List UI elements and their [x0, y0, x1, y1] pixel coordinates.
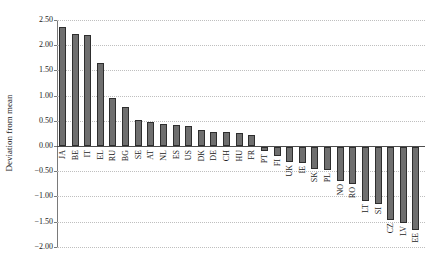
bar — [173, 125, 180, 146]
zero-line — [57, 146, 425, 147]
category-label: DK — [196, 150, 207, 168]
bar — [97, 63, 104, 146]
bar — [198, 130, 205, 146]
category-label: US — [183, 150, 194, 168]
bar — [299, 147, 306, 163]
category-label: FI — [272, 159, 283, 177]
category-label: SE — [133, 150, 144, 168]
bar — [84, 35, 91, 146]
category-label: FR — [246, 150, 257, 168]
category-label: BE — [70, 150, 81, 168]
bar — [147, 122, 154, 146]
y-tick-label: 2.00 — [17, 40, 53, 50]
bar — [223, 132, 230, 146]
category-label: NO — [335, 184, 346, 202]
bar — [274, 147, 281, 156]
category-label: LT — [360, 204, 371, 222]
bar — [160, 124, 167, 146]
bar — [387, 147, 394, 220]
gridline — [57, 247, 425, 248]
bar — [135, 120, 142, 146]
y-axis-line — [57, 20, 58, 248]
y-tick-label: −0.50 — [17, 166, 53, 176]
category-label: UK — [284, 165, 295, 183]
category-label: SK — [309, 172, 320, 190]
y-axis-tick — [54, 20, 57, 21]
category-label: PL — [322, 173, 333, 191]
y-axis-tick — [54, 96, 57, 97]
y-tick-label: −2.00 — [17, 242, 53, 252]
y-axis-tick — [54, 171, 57, 172]
category-label: EE — [410, 233, 421, 251]
gridline — [57, 70, 425, 71]
y-axis-tick — [54, 70, 57, 71]
category-label: PT — [259, 154, 270, 172]
y-axis-title: Deviation from mean — [3, 83, 15, 183]
gridline — [57, 222, 425, 223]
y-tick-label: 2.50 — [17, 15, 53, 25]
bar — [311, 147, 318, 169]
y-axis-tick — [54, 222, 57, 223]
category-label: SI — [373, 207, 384, 225]
category-label: RO — [347, 187, 358, 205]
bar — [286, 147, 293, 162]
gridline — [57, 171, 425, 172]
category-label: NL — [158, 150, 169, 168]
gridline — [57, 96, 425, 97]
category-label: JA — [57, 150, 68, 168]
y-axis-tick — [54, 121, 57, 122]
bar — [362, 147, 369, 201]
bar — [337, 147, 344, 181]
gridline — [57, 45, 425, 46]
bar — [375, 147, 382, 204]
bar — [248, 135, 255, 146]
y-axis-tick — [54, 196, 57, 197]
bar — [59, 27, 66, 146]
bar — [412, 147, 419, 230]
bar — [210, 132, 217, 146]
category-label: RU — [107, 150, 118, 168]
gridline — [57, 20, 425, 21]
category-label: IE — [297, 166, 308, 184]
bar — [122, 107, 129, 146]
bar — [349, 147, 356, 184]
category-label: ES — [171, 150, 182, 168]
y-tick-label: 1.00 — [17, 91, 53, 101]
category-label: EL — [95, 150, 106, 168]
category-label: IT — [82, 150, 93, 168]
category-label: HU — [234, 150, 245, 168]
bar — [261, 147, 268, 151]
bar — [109, 98, 116, 146]
category-label: LV — [398, 226, 409, 244]
y-tick-label: 0.00 — [17, 141, 53, 151]
bar — [236, 133, 243, 146]
gridline — [57, 196, 425, 197]
y-tick-label: −1.50 — [17, 217, 53, 227]
y-tick-label: −1.00 — [17, 191, 53, 201]
y-axis-tick — [54, 247, 57, 248]
category-label: CH — [221, 150, 232, 168]
y-axis-tick — [54, 45, 57, 46]
bar-chart: Deviation from mean 2.502.001.501.000.50… — [0, 0, 439, 265]
y-tick-label: 1.50 — [17, 65, 53, 75]
bar — [72, 34, 79, 146]
category-label: AT — [145, 150, 156, 168]
y-tick-label: 0.50 — [17, 116, 53, 126]
bar — [324, 147, 331, 170]
category-label: CZ — [385, 223, 396, 241]
bar — [185, 126, 192, 146]
category-label: DE — [208, 150, 219, 168]
category-label: BG — [120, 150, 131, 168]
bar — [400, 147, 407, 223]
